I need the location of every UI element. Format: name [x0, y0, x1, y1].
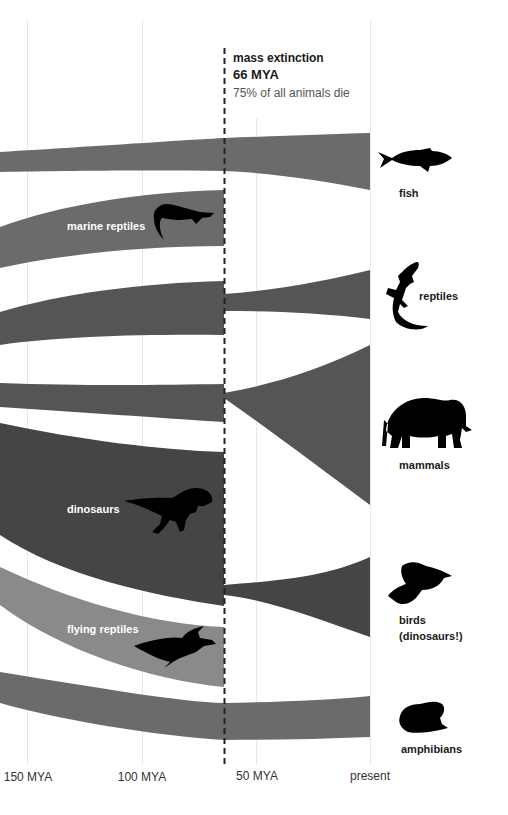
x-tick-150-mya: 150 MYA	[4, 770, 52, 784]
band-mammals-after	[224, 345, 370, 505]
annotation-note: 75% of all animals die	[233, 86, 353, 101]
bird-icon	[388, 562, 452, 604]
label-marine-reptiles: marine reptiles	[67, 220, 145, 232]
band-birds	[224, 557, 370, 637]
label-mammals: mammals	[399, 459, 450, 471]
band-reptiles-after	[224, 270, 370, 319]
mass-extinction-annotation: mass extinction 66 MYA 75% of all animal…	[233, 50, 353, 101]
label-fish: fish	[399, 187, 419, 199]
band-fish	[0, 133, 370, 190]
x-tick-present: present	[350, 769, 390, 783]
label-reptiles: reptiles	[419, 290, 458, 302]
frog-icon	[399, 702, 448, 733]
band-amphibians	[0, 672, 370, 740]
label-dinosaurs: dinosaurs	[67, 503, 120, 515]
label-birds: birds	[399, 614, 426, 626]
evolution-chart	[0, 0, 508, 815]
elephant-icon	[382, 398, 472, 448]
band-mammals-before	[0, 383, 224, 422]
label-flying-reptiles: flying reptiles	[67, 623, 139, 635]
annotation-title: mass extinction	[233, 50, 353, 66]
fish-icon	[378, 148, 452, 172]
annotation-date: 66 MYA	[233, 66, 353, 83]
x-tick-100-mya: 100 MYA	[118, 770, 166, 784]
x-tick-50-mya: 50 MYA	[236, 769, 278, 783]
label-birds-note: (dinosaurs!)	[399, 630, 463, 642]
label-amphibians: amphibians	[401, 743, 462, 755]
band-reptiles-before	[0, 281, 224, 345]
